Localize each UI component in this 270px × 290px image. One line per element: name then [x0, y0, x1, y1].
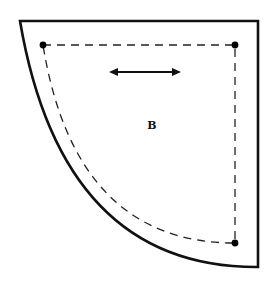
piece-label: B	[147, 119, 156, 132]
corner-dot-bottom-right	[232, 240, 239, 247]
corner-dot-top-right	[232, 42, 239, 49]
pattern-piece-diagram: B	[0, 0, 270, 290]
cutting-outline	[20, 21, 258, 267]
corner-dot-top-left	[40, 42, 47, 49]
seam-line-dashed	[43, 45, 235, 243]
grainline-arrow-icon	[109, 68, 181, 76]
